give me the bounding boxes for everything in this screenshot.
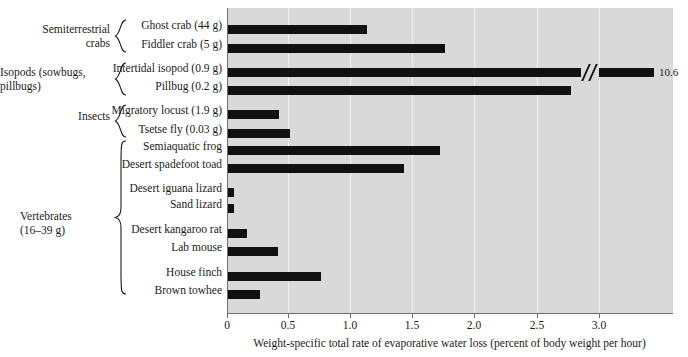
bar-desert-iguana-lizard xyxy=(228,188,234,197)
category-label-tsetse-fly: Tsetse fly (0.03 g) xyxy=(138,123,222,136)
brace-semiterrestrial-crabs xyxy=(114,19,127,53)
evaporative-water-loss-chart: 10.6 xyxy=(0,0,688,357)
category-label-fiddler-crab: Fiddler crab (5 g) xyxy=(141,38,222,51)
tick-label-0: 0 xyxy=(224,319,230,332)
bar-house-finch xyxy=(228,272,321,281)
bar-desert-kangaroo-rat xyxy=(228,229,247,238)
group-label-line1: Vertebrates xyxy=(20,209,110,223)
bar-migratory-locust xyxy=(228,110,279,119)
tick-0.5 xyxy=(288,313,289,318)
plot-area: 10.6 xyxy=(227,8,673,314)
group-label-line1: Semiterrestrial xyxy=(0,22,110,36)
tick-1.0 xyxy=(350,313,351,318)
category-label-sand-lizard: Sand lizard xyxy=(170,198,222,211)
category-label-desert-kangaroo-rat: Desert kangaroo rat xyxy=(131,223,222,236)
category-label-desert-spadefoot-toad: Desert spadefoot toad xyxy=(122,158,222,171)
tick-label-1.5: 1.5 xyxy=(405,319,419,332)
gridline-0.5 xyxy=(288,8,289,313)
tick-2.0 xyxy=(474,313,475,318)
gridline-2.0 xyxy=(474,8,475,313)
tick-label-1.0: 1.0 xyxy=(343,319,357,332)
bar-lab-mouse xyxy=(228,247,278,256)
group-label-line2: crabs xyxy=(0,36,110,50)
category-label-migratory-locust: Migratory locust (1.9 g) xyxy=(111,104,222,117)
gridline-2.5 xyxy=(537,8,538,313)
group-label-isopods: Isopods (sowbugs, pillbugs) xyxy=(0,65,110,93)
category-label-pillbug: Pillbug (0.2 g) xyxy=(155,80,222,93)
group-label-line2: pillbugs) xyxy=(0,79,110,93)
tick-2.5 xyxy=(537,313,538,318)
category-label-semiaquatic-frog: Semiaquatic frog xyxy=(143,140,222,153)
brace-isopods xyxy=(114,62,127,96)
gridline-1.5 xyxy=(412,8,413,313)
axis-break-marker xyxy=(581,64,599,81)
bar-fiddler-crab xyxy=(228,44,445,53)
gridline-1.0 xyxy=(350,8,351,313)
group-label-line1: Insects xyxy=(0,109,110,123)
category-label-house-finch: House finch xyxy=(166,266,222,279)
category-label-intertidal-isopod: Intertidal isopod (0.9 g) xyxy=(113,62,222,75)
category-label-desert-iguana-lizard: Desert iguana lizard xyxy=(129,182,222,195)
tick-1.5 xyxy=(412,313,413,318)
bar-desert-spadefoot-toad xyxy=(228,164,404,173)
tick-label-0.5: 0.5 xyxy=(281,319,295,332)
brace-vertebrates xyxy=(114,140,127,295)
brace-insects xyxy=(114,104,127,138)
category-label-lab-mouse: Lab mouse xyxy=(171,241,222,254)
bar-semiaquatic-frog xyxy=(228,146,440,155)
gridline-3.0 xyxy=(599,8,600,313)
bar-brown-towhee xyxy=(228,290,260,299)
group-label-line2: (16–39 g) xyxy=(20,223,110,237)
category-label-brown-towhee: Brown towhee xyxy=(155,284,222,297)
tick-label-2.0: 2.0 xyxy=(467,319,481,332)
group-label-line1: Isopods (sowbugs, xyxy=(0,65,110,79)
tick-3.0 xyxy=(599,313,600,318)
bar-value-intertidal-isopod: 10.6 xyxy=(659,64,678,81)
category-label-ghost-crab: Ghost crab (44 g) xyxy=(141,19,222,32)
group-label-vertebrates: Vertebrates (16–39 g) xyxy=(20,209,110,237)
group-label-insects: Insects xyxy=(0,109,110,123)
tick-0 xyxy=(227,313,228,318)
bar-pillbug xyxy=(228,86,571,95)
bar-tsetse-fly xyxy=(228,129,290,138)
bar-sand-lizard xyxy=(228,204,234,213)
bar-ghost-crab xyxy=(228,25,367,34)
x-axis-title: Weight-specific total rate of evaporativ… xyxy=(227,336,672,350)
tick-label-2.5: 2.5 xyxy=(530,319,544,332)
group-label-semiterrestrial-crabs: Semiterrestrial crabs xyxy=(0,22,110,50)
tick-label-3.0: 3.0 xyxy=(592,319,606,332)
